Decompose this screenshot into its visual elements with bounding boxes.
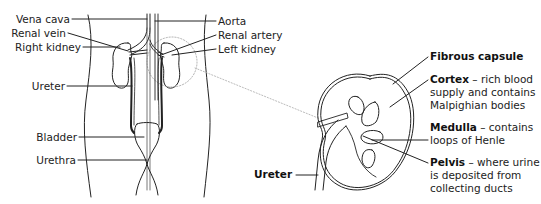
ureter-left [159,58,162,133]
pyramid-1 [349,96,364,114]
label-renal-vein: Renal vein [2,27,66,39]
label-bladder: Bladder [20,131,77,143]
term-medulla: Medulla [430,121,477,133]
pyramid-4 [362,149,375,167]
pyramid-3 [361,130,383,143]
body-outline-right [204,15,210,197]
label-fibrous-capsule: Fibrous capsule [430,50,540,63]
aorta [155,14,158,100]
label-left-kidney: Left kidney [218,43,276,55]
term-pelvis: Pelvis [430,156,465,168]
label-kidney-ureter: Ureter [254,168,292,181]
label-medulla: Medulla – contains loops of Henle [430,121,540,147]
label-ureter: Ureter [20,80,65,92]
label-right-kidney: Right kidney [2,41,81,53]
label-urethra: Urethra [20,154,76,166]
label-renal-artery: Renal artery [218,29,283,41]
term-fibrous-capsule: Fibrous capsule [430,50,523,62]
zoom-indicator-line [195,68,318,118]
body-outline-left [84,15,91,197]
ureter-right [130,58,134,133]
label-pelvis: Pelvis – where urine is deposited from c… [430,156,540,195]
term-ureter: Ureter [254,168,292,180]
label-aorta: Aorta [218,15,246,27]
label-cortex: Cortex – rich blood supply and contains … [430,73,540,112]
label-vena-cava: Vena cava [6,13,70,25]
term-cortex: Cortex [430,73,469,85]
